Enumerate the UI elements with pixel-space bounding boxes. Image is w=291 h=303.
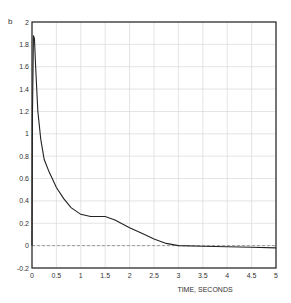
y-axis-ticks: -0.200.20.40.60.811.21.41.61.82 (17, 19, 29, 272)
x-tick-label: 2.5 (149, 272, 159, 279)
x-tick-label: 4.5 (247, 272, 257, 279)
y-tick-label: 1.2 (19, 108, 29, 115)
y-tick-label: 0.4 (19, 197, 29, 204)
x-axis-label: TIME, SECONDS (177, 286, 233, 293)
x-tick-label: 0 (30, 272, 34, 279)
x-tick-label: 1.5 (100, 272, 110, 279)
y-tick-label: 1.4 (19, 86, 29, 93)
x-tick-label: 3 (176, 272, 180, 279)
x-tick-label: 1 (79, 272, 83, 279)
y-tick-label: 1.8 (19, 41, 29, 48)
x-tick-label: 5 (274, 272, 278, 279)
y-tick-label: 0 (25, 242, 29, 249)
y-tick-label: 2 (25, 19, 29, 26)
x-tick-label: 4 (225, 272, 229, 279)
grid (32, 22, 276, 268)
x-axis-ticks: 00.511.522.533.544.55 (30, 272, 278, 279)
y-tick-label: 0.8 (19, 153, 29, 160)
x-tick-label: 3.5 (198, 272, 208, 279)
chart: -0.200.20.40.60.811.21.41.61.82 00.511.5… (0, 0, 291, 303)
y-tick-label: -0.2 (17, 265, 29, 272)
y-tick-label: 1.6 (19, 63, 29, 70)
x-tick-label: 2 (128, 272, 132, 279)
x-tick-label: 0.5 (52, 272, 62, 279)
y-tick-label: 0.2 (19, 220, 29, 227)
y-tick-label: 0.6 (19, 175, 29, 182)
panel-label: b (8, 17, 13, 26)
y-tick-label: 1 (25, 130, 29, 137)
